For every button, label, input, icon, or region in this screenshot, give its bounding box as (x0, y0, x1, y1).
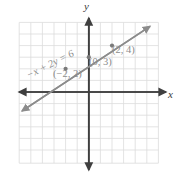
coordinate-plane-figure: x y (2, 4) (0, 3) (−2, 2) −x + 2y = 6 (0, 0, 185, 181)
point-label-0-3: (0, 3) (89, 56, 112, 67)
axes (19, 18, 166, 170)
x-axis-label: x (168, 88, 173, 100)
point-label-neg2-2: (−2, 2) (53, 68, 82, 79)
point-label-2-4: (2, 4) (112, 44, 135, 55)
plot-svg (0, 0, 185, 181)
y-axis-label: y (84, 0, 89, 12)
